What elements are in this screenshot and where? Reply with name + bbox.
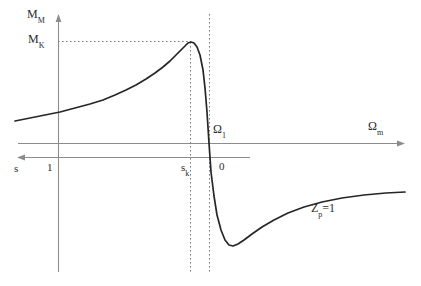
slip-axis-arrowhead (17, 155, 25, 161)
slip-axis-label: s (14, 163, 18, 174)
torque-axis-label-base: M (27, 7, 38, 21)
breakdown-torque-label-subscript: K (39, 41, 45, 50)
rotor-impedance-note-tail: =1 (322, 201, 335, 215)
slip-axis (17, 155, 250, 161)
torque-axis-label: MM (27, 8, 45, 23)
slip-tick-zero: 0 (219, 161, 225, 172)
synchronous-speed-label: Ω1 (213, 123, 226, 138)
speed-axis-label: Ωm (368, 120, 383, 135)
speed-axis-label-subscript: m (377, 128, 383, 137)
plot-canvas (0, 0, 421, 286)
speed-axis-label-base: Ω (368, 119, 377, 133)
torque-axis-label-subscript: M (38, 16, 45, 25)
slip-tick-breakdown-subscript: k (185, 169, 189, 178)
breakdown-torque-label-base: M (28, 32, 39, 46)
torque-axis-arrowhead (56, 14, 62, 22)
rotor-impedance-note: Zp=1 (311, 202, 335, 217)
synchronous-speed-label-base: Ω (213, 122, 222, 136)
speed-axis-arrowhead (397, 141, 405, 147)
speed-axis (18, 141, 405, 147)
breakdown-torque-label: MK (28, 33, 44, 48)
slip-tick-breakdown: sk (181, 162, 189, 176)
slip-tick-one: 1 (47, 162, 53, 173)
torque-slip-characteristic-figure: MM MK Ωm Ω1 s 1 sk 0 Zp=1 (0, 0, 421, 286)
rotor-impedance-note-subscript: p (318, 210, 322, 219)
synchronous-speed-label-subscript: 1 (222, 131, 226, 140)
